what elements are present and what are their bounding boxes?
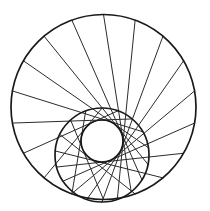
spoke-line bbox=[72, 20, 142, 180]
spoke-line bbox=[71, 120, 104, 199]
spoke-line bbox=[87, 61, 184, 200]
spoke-line bbox=[57, 153, 184, 167]
spoke-line bbox=[12, 91, 142, 132]
outer-circle bbox=[11, 15, 196, 200]
spoke-line bbox=[117, 20, 135, 199]
inner-circle bbox=[81, 120, 123, 162]
spoke-line bbox=[73, 91, 194, 192]
middle-circle bbox=[55, 108, 149, 202]
poncelet-spiral-diagram bbox=[0, 0, 210, 211]
spoke-line bbox=[44, 36, 148, 164]
